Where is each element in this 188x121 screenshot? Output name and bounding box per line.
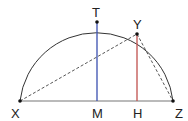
label-x: X [11, 106, 20, 121]
label-y: Y [133, 17, 142, 32]
point-z [171, 99, 175, 103]
label-h: H [133, 106, 142, 121]
label-t: T [92, 5, 100, 20]
label-z: Z [175, 106, 183, 121]
point-x [18, 99, 22, 103]
point-t [95, 20, 99, 24]
label-m: M [92, 106, 103, 121]
dashed-yz [137, 34, 173, 101]
point-y [135, 32, 139, 36]
dashed-xy [20, 34, 137, 101]
semicircle-diagram: T Y X M H Z [0, 0, 188, 121]
